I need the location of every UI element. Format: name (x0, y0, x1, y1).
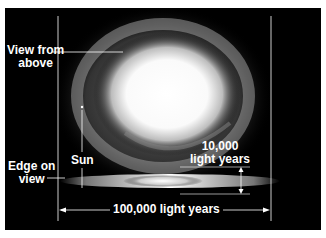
thickness-arrow-up-head (239, 167, 244, 172)
galaxy-graphic (5, 8, 321, 230)
diameter-label: 100,000 light years (113, 203, 220, 216)
diameter-arrow-right-head (263, 208, 270, 213)
sun-marker (81, 106, 83, 108)
diameter-arrow-left-head (59, 208, 66, 213)
milky-way-diagram: View from above Sun Edge on view 10,000 … (5, 8, 321, 230)
galaxy-bulge-edge (123, 175, 203, 187)
sun-label: Sun (71, 154, 94, 167)
galaxy-core (93, 32, 241, 156)
edge-on-view-label: Edge on view (8, 160, 55, 186)
thickness-label: 10,000 light years (190, 140, 250, 166)
view-from-above-label: View from above (7, 44, 64, 70)
thickness-arrow-down-head (239, 189, 244, 194)
